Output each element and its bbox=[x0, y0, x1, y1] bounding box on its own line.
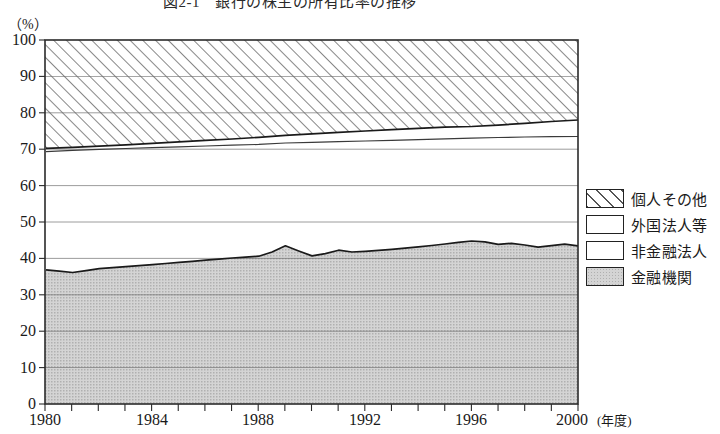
x-tick-label-1996: 1996 bbox=[455, 412, 487, 428]
legend-swatch-hatched-icon bbox=[586, 189, 624, 208]
legend-swatch-gray-dotted-icon bbox=[586, 267, 624, 286]
x-axis-ticks bbox=[45, 404, 578, 411]
legend-item-kojin-sonota: 個人その他 bbox=[586, 186, 708, 211]
legend-swatch-white-icon bbox=[586, 215, 624, 234]
y-tick-label-50: 50 bbox=[0, 214, 36, 230]
chart-legend: 個人その他 外国法人等 非金融法人 金融機関 bbox=[586, 186, 708, 290]
x-tick-label-1984: 1984 bbox=[136, 412, 168, 428]
y-tick-label-90: 90 bbox=[0, 68, 36, 84]
legend-label-kinyu-kikan: 金融機関 bbox=[631, 266, 692, 287]
figure-root: 図2-1 銀行の株主の所有比率の推移 （%） bbox=[0, 0, 720, 434]
y-tick-label-30: 30 bbox=[0, 287, 36, 303]
y-tick-label-0: 0 bbox=[0, 396, 36, 412]
x-tick-label-1988: 1988 bbox=[242, 412, 274, 428]
y-axis-ticks bbox=[39, 40, 45, 404]
x-tick-label-1992: 1992 bbox=[349, 412, 381, 428]
y-tick-label-70: 70 bbox=[0, 141, 36, 157]
y-tick-label-10: 10 bbox=[0, 360, 36, 376]
legend-item-gaikoku-hojin: 外国法人等 bbox=[586, 212, 708, 237]
y-tick-label-60: 60 bbox=[0, 178, 36, 194]
legend-item-kinyu-kikan: 金融機関 bbox=[586, 264, 708, 289]
legend-label-hikinyu-hojin: 非金融法人 bbox=[631, 240, 708, 261]
y-tick-label-20: 20 bbox=[0, 323, 36, 339]
y-tick-label-100: 100 bbox=[0, 32, 36, 48]
legend-label-kojin-sonota: 個人その他 bbox=[631, 188, 708, 209]
legend-item-hikinyu-hojin: 非金融法人 bbox=[586, 238, 708, 263]
y-tick-label-80: 80 bbox=[0, 105, 36, 121]
legend-label-gaikoku-hojin: 外国法人等 bbox=[631, 214, 708, 235]
x-axis-unit-label: (年度) bbox=[597, 414, 632, 427]
legend-swatch-white2-icon bbox=[586, 241, 624, 260]
x-tick-label-1980: 1980 bbox=[29, 412, 61, 428]
x-tick-label-2000: 2000 bbox=[556, 412, 588, 428]
y-tick-label-40: 40 bbox=[0, 250, 36, 266]
